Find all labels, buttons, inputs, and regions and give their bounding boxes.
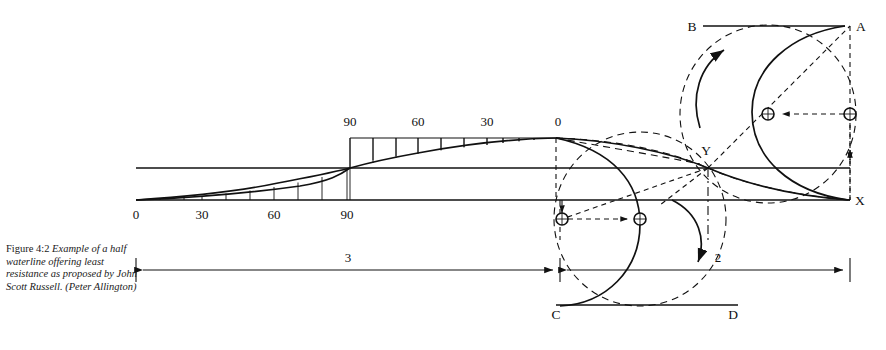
upper-scale-label-90: 90	[344, 114, 357, 129]
waterline-diagram: 90 60 30 0 0 30 60 90 B A C D X Y 3 2	[0, 0, 886, 350]
label-point-y: Y	[701, 143, 711, 158]
rotation-arrow-lower	[672, 200, 701, 262]
rotation-arrow-upper	[696, 50, 724, 128]
lower-scale-label-60: 60	[268, 207, 281, 222]
solid-arc-lower	[556, 138, 640, 306]
run-curve	[350, 138, 556, 168]
upper-band-ordinates	[373, 138, 534, 163]
upper-scale-label-60: 60	[412, 114, 425, 129]
upper-scale-label-30: 30	[481, 114, 494, 129]
lower-scale-label-90: 90	[341, 207, 354, 222]
label-point-d: D	[728, 307, 738, 322]
caption-lead: Figure 4:2	[6, 243, 52, 254]
dimension-label-right: 2	[715, 250, 722, 265]
upper-scale-ticks	[350, 138, 556, 168]
figure-caption: Figure 4:2 Example of a half waterline o…	[6, 243, 146, 293]
lower-scale-label-0: 0	[133, 207, 140, 222]
figure-root: 90 60 30 0 0 30 60 90 B A C D X Y 3 2 Fi…	[0, 0, 886, 350]
label-point-c: C	[551, 307, 560, 322]
label-point-b: B	[687, 19, 696, 34]
dimension-label-left: 3	[345, 250, 352, 265]
label-point-x: X	[855, 193, 865, 208]
dashed-wave-curve-left	[556, 138, 700, 164]
lower-scale-label-30: 30	[196, 207, 209, 222]
entrance-curve	[136, 168, 350, 200]
upper-scale-label-0: 0	[555, 114, 562, 129]
label-point-a: A	[856, 19, 866, 34]
diagonal-y-to-a	[708, 26, 850, 168]
entrance-curve-extension	[136, 168, 350, 200]
